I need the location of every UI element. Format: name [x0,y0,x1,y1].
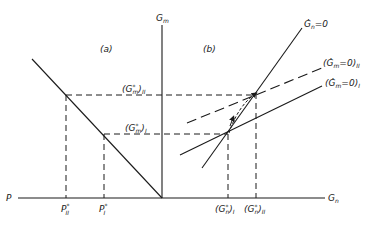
economic-equilibrium-diagram: (a) (b) Gm Gn P Ġn=0 (Ġm=0)II (Ġm=0)I (G… [0,0,373,228]
gm-star-I-label: (G*m)I [125,122,147,134]
panel-b-label: (b) [203,44,216,54]
panel-a-label: (a) [100,44,113,54]
gn-star-II-label: (G*n)II [244,203,266,215]
gm-dot-zero-II-label: (Ġm=0)II [323,58,360,69]
gn-star-I-label: (G*n)I [215,203,235,215]
p-star-II-label: P*II [61,202,69,216]
gn-dot-zero-label: Ġn=0 [304,19,328,30]
gm-star-II-label: (G*m)II [122,83,146,95]
gm-dot-zero-I-label: (Ġm=0)I [325,78,360,89]
p-star-I-label: P*I [99,202,107,216]
gn-dot-zero-line [202,28,302,168]
p-axis-label: P [6,193,12,203]
gm-axis-label: Gm [156,13,169,24]
gn-axis-label: Gn [328,193,339,204]
